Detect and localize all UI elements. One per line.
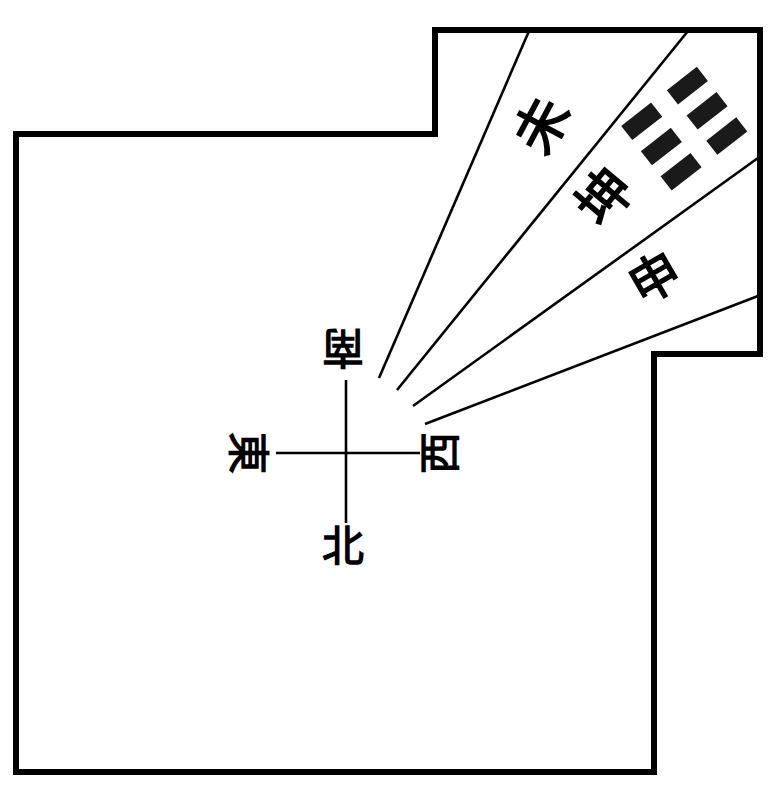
diagram-canvas: 南 東 西 北 未 坤 申	[0, 0, 779, 802]
trigram-kun-icon	[621, 67, 747, 191]
outer-border	[16, 30, 760, 772]
compass-south-label: 南	[322, 326, 364, 368]
compass-west-label: 西	[420, 432, 462, 474]
ray-2	[397, 31, 688, 390]
compass-north-label: 北	[322, 526, 364, 568]
diagram-lines	[0, 0, 779, 802]
ray-1	[379, 31, 529, 378]
compass-east-label: 東	[226, 432, 268, 474]
